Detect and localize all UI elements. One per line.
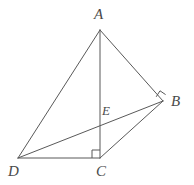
geometry-canvas [0,0,194,185]
segment-db [18,101,163,158]
right-angle-mark-b [156,91,165,97]
segment-ad [18,30,100,158]
segment-ab [100,30,163,101]
vertex-label-c: C [96,164,106,179]
vertex-label-e: E [102,104,110,117]
vertex-label-d: D [8,164,19,179]
geometry-figure: A B C D E [0,0,194,185]
vertex-label-b: B [171,94,180,109]
right-angle-mark-c [92,150,100,158]
vertex-label-a: A [94,7,103,22]
